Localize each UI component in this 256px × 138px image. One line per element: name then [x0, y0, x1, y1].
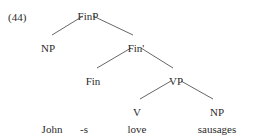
- node-finp: FinP: [78, 11, 99, 22]
- vp-to-np-object: [181, 81, 213, 99]
- fin-bar-to-vp: [141, 48, 173, 68]
- node-v: V: [133, 107, 141, 118]
- finp-to-fin-bar: [93, 16, 133, 35]
- terminal-word: sausages: [198, 124, 237, 135]
- node-fin-bar: Fin': [128, 43, 145, 54]
- node-fin: Fin: [86, 76, 101, 87]
- terminal-word: John: [42, 124, 63, 135]
- terminal-word: -s: [80, 124, 88, 135]
- vp-to-v: [140, 81, 171, 99]
- node-vp: VP: [169, 76, 183, 87]
- node-np-object: NP: [210, 107, 224, 118]
- node-np-subject: NP: [41, 43, 55, 54]
- terminal-word: love: [128, 124, 147, 135]
- fin-bar-to-fin: [97, 48, 131, 68]
- syntax-tree-figure: (44) FinP NP Fin' Fin VP V NP John-slove…: [0, 0, 256, 138]
